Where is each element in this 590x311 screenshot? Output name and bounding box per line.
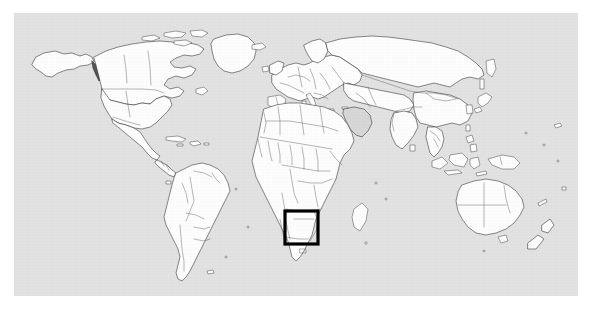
island-new-guinea [488,155,520,169]
island-fiji [562,187,566,190]
korean-peninsula [466,105,473,114]
japan-south [474,107,482,113]
country-japan [478,93,492,107]
islet-hawaii [554,123,562,128]
islet-indian-2 [385,198,387,200]
islet-atlantic-2 [247,226,249,228]
island-puerto-rico [204,143,209,145]
islet-indian-1 [375,182,377,184]
island-java [444,170,462,175]
islet-indian-3 [365,242,367,244]
country-greenland [211,34,256,73]
island-madagascar [352,203,368,231]
island-new-caledonia [538,199,547,206]
islet-atlantic-1 [235,188,237,190]
country-canada [94,41,204,105]
island-taiwan [466,125,470,131]
ireland [262,66,269,72]
country-india [390,111,418,149]
arctic-island-1 [164,31,186,38]
island-cuba [166,136,186,142]
island-falklands [207,270,214,274]
island-philippines-1 [466,135,474,143]
islet-south-atlantic [225,256,227,258]
islet-pacific-4 [483,250,485,252]
arctic-island-3 [142,35,160,41]
east-asia [413,91,472,127]
island-philippines-2 [470,144,477,152]
continent-south-america [164,163,230,281]
continent-oceania [456,179,566,249]
island-sakhalin [480,79,484,89]
island-jamaica [177,144,183,146]
world-map-svg [14,13,578,296]
page-root [0,0,590,311]
country-new-zealand-north [542,219,554,233]
kamchatka [486,59,496,77]
islet-pacific-2 [543,144,545,146]
southeast-asia [426,127,444,157]
central-america [155,160,176,177]
continent-north-america [32,30,256,177]
newfoundland [196,87,208,95]
country-alaska [32,51,94,77]
world-map-figure [14,13,578,296]
islet-pacific-3 [557,160,559,162]
country-new-zealand-south [528,235,544,249]
islet-galapagos [166,181,171,184]
island-tasmania [498,235,508,243]
island-sulawesi [470,157,480,169]
island-timor [476,171,487,176]
island-sri-lanka [410,145,415,151]
island-sumatra [432,157,448,169]
continent-asia [326,36,520,176]
arctic-island-2 [190,30,208,37]
island-borneo [449,153,468,167]
island-hispaniola [190,141,201,146]
country-australia [456,179,524,235]
islet-pacific-1 [525,132,527,134]
south-america-landmass [164,163,230,281]
